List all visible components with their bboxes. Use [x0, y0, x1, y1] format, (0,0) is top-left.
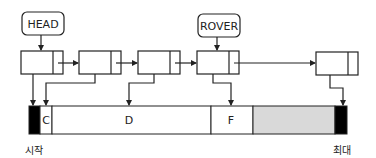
- end-label: 최대: [333, 145, 351, 156]
- start-sentinel-block: [29, 106, 40, 134]
- free-list-diagram: HEAD ROVER: [0, 0, 376, 158]
- list-node-3: [138, 51, 180, 74]
- rover-label: ROVER: [200, 20, 239, 33]
- list-node-2: [79, 51, 121, 74]
- free-region: [253, 106, 335, 134]
- head-pointer: HEAD: [22, 12, 64, 50]
- block-pointers: [33, 74, 343, 105]
- list-node-4: [197, 51, 239, 74]
- end-sentinel-block: [335, 106, 347, 134]
- head-label: HEAD: [27, 18, 58, 31]
- list-node-1: [21, 51, 63, 74]
- memory-bar: C D F: [29, 106, 347, 134]
- block-c-label: C: [42, 114, 50, 127]
- block-d-label: D: [125, 114, 133, 127]
- start-label: 시작: [25, 145, 43, 156]
- list-node-5: [316, 52, 358, 75]
- block-f-label: F: [228, 114, 234, 127]
- rover-pointer: ROVER: [198, 14, 240, 50]
